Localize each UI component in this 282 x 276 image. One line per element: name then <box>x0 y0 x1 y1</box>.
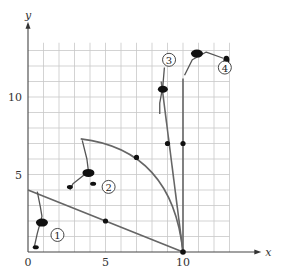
position-label-4: 4 <box>218 61 231 74</box>
x-axis-label: x <box>265 246 272 259</box>
axes: xy0510510 <box>8 9 272 269</box>
shorts <box>33 245 39 249</box>
position-label-1: 1 <box>51 228 64 241</box>
vaulter-1 <box>33 192 48 250</box>
label-number: 4 <box>222 63 228 74</box>
vaulter-2 <box>67 140 96 190</box>
shorts <box>67 185 73 189</box>
shorts <box>158 86 168 93</box>
pole-vault-diagram: xy0510510 1234 <box>0 0 282 276</box>
poles <box>28 78 186 254</box>
grid <box>28 43 230 252</box>
label-number: 2 <box>105 182 111 193</box>
y-tick-label: 10 <box>8 91 22 104</box>
pole-marker-dot <box>134 155 139 160</box>
shorts <box>191 50 203 58</box>
x-tick-label: 0 <box>25 256 32 269</box>
pole-marker-dot <box>103 218 108 223</box>
position-label-2: 2 <box>102 180 115 193</box>
x-tick-label: 10 <box>176 256 190 269</box>
shorts <box>36 219 48 227</box>
pivot-dot <box>180 249 186 255</box>
label-number: 1 <box>54 230 60 241</box>
body-outline <box>70 140 89 190</box>
shorts <box>90 182 96 186</box>
y-axis-arrow-icon <box>26 22 31 29</box>
pole-marker-dot <box>180 141 185 146</box>
y-axis-label: y <box>24 9 32 22</box>
position-label-3: 3 <box>163 53 176 66</box>
shorts <box>82 169 94 177</box>
pole-3 <box>161 82 183 253</box>
vaulter-figures <box>33 50 230 250</box>
x-axis-arrow-icon <box>254 250 261 255</box>
pole-marker-dot <box>165 141 170 146</box>
y-tick-label: 5 <box>15 169 22 182</box>
body-outline <box>185 52 224 75</box>
label-number: 3 <box>166 55 172 66</box>
x-tick-label: 5 <box>102 256 109 269</box>
